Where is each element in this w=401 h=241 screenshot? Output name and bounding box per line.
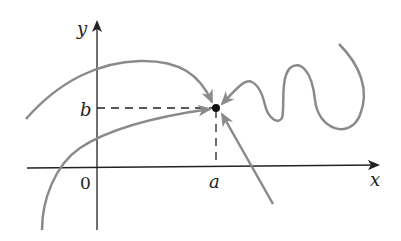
limit-paths-diagram: y x 0 b a (0, 0, 401, 241)
x-axis-label: x (370, 169, 380, 190)
lower-left-curve-path (42, 109, 210, 230)
x-axis (27, 165, 378, 168)
wiggly-path (222, 44, 364, 129)
point-b-label: b (80, 99, 92, 120)
y-axis-label: y (76, 18, 88, 39)
point-a-label: a (209, 171, 220, 192)
upper-arc-path (26, 61, 212, 119)
limit-point (212, 104, 220, 112)
straight-line-path (222, 114, 273, 204)
origin-label: 0 (80, 173, 91, 193)
